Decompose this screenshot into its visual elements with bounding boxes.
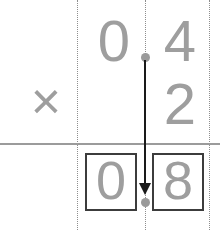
answer-digit-second: 8	[154, 151, 202, 209]
decimal-placement-arrow-shaft	[144, 60, 146, 186]
multiplicand-ones-digit: 0	[92, 12, 136, 70]
answer-box-first[interactable]: 0	[85, 153, 137, 211]
decimal-multiplication-worksheet: 0 4 × 2 0 8	[0, 0, 220, 230]
decimal-placement-arrow-head	[139, 183, 151, 195]
answer-digit-first: 0	[87, 151, 135, 209]
answer-box-second[interactable]: 8	[152, 153, 204, 211]
multiplicand-tenths-digit: 4	[158, 12, 202, 70]
answer-decimal-point-dot	[141, 198, 150, 207]
place-value-guide-left	[77, 0, 78, 230]
place-value-guide-right	[209, 0, 210, 230]
answer-rule-line	[0, 143, 220, 145]
multiplication-sign: ×	[24, 75, 68, 127]
multiplier-ones-digit: 2	[158, 75, 202, 133]
